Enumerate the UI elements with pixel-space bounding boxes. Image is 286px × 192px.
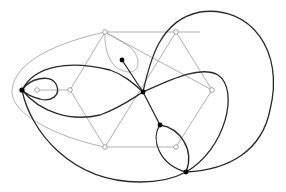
black-lens-left (156, 125, 186, 172)
gray-node-bottom-left (103, 145, 108, 150)
black-node-center (141, 90, 146, 95)
black-graph (22, 11, 274, 182)
black-edge-center-right-arc (143, 72, 228, 172)
gray-node-left (68, 88, 73, 93)
gray-outer-curve-left (12, 32, 105, 147)
black-node-lower (158, 123, 163, 128)
gray-edge-top-right (176, 32, 212, 90)
gray-graph (12, 32, 212, 147)
black-edge-center-lower (143, 92, 160, 125)
graph-diagram (0, 0, 286, 192)
gray-node-top-left (103, 30, 108, 35)
gray-node-right (210, 88, 215, 93)
gray-diagonal-4 (105, 90, 212, 147)
black-node-bottom (184, 170, 189, 175)
black-node-left (19, 87, 24, 92)
gray-edge-bottom-left (70, 90, 105, 147)
black-node-top-inner (120, 58, 125, 63)
gray-node-inner-left (35, 88, 40, 93)
gray-diagonal-5 (70, 90, 176, 147)
gray-loop-top (105, 32, 138, 72)
gray-nodes (35, 30, 215, 150)
black-edge-left-bottom (22, 90, 186, 182)
gray-node-bottom-right (174, 145, 179, 150)
gray-edge-top-left (70, 32, 105, 90)
black-edge-left-center-lower (22, 90, 143, 117)
black-edge-center-topinner (122, 60, 143, 92)
gray-node-top-right (174, 30, 179, 35)
